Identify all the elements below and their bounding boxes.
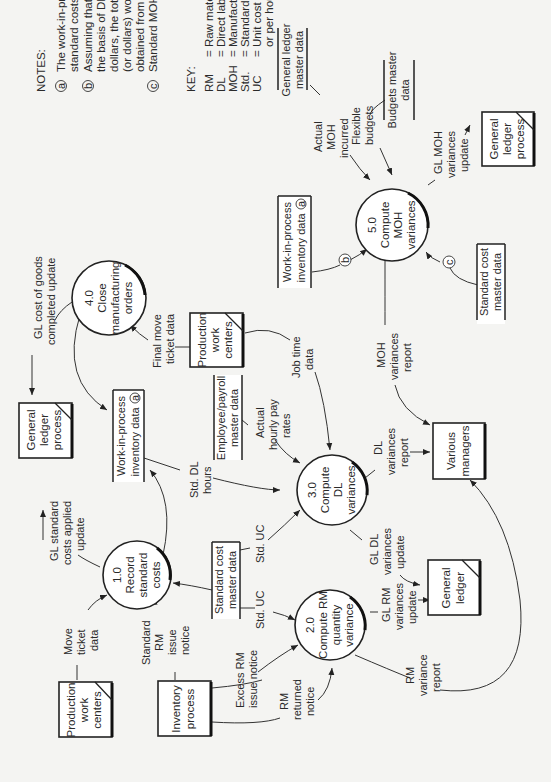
entity-production-work-centers-1[interactable]: Production work centers [59, 682, 112, 737]
svg-text:variances: variances [381, 527, 393, 575]
process-4-close-manufacturing-orders[interactable]: 4.0 Close manufacturing orders [72, 261, 146, 335]
svg-text:= Direct labor: = Direct labor [215, 0, 227, 57]
svg-text:ledger: ledger [501, 123, 513, 155]
svg-text:4.0: 4.0 [83, 290, 95, 306]
store-wip-inventory-data-1[interactable]: Work-in-process inventory data a [113, 390, 144, 482]
svg-text:centers: centers [91, 691, 103, 729]
svg-text:ledger: ledger [38, 414, 50, 446]
svg-text:budgets: budgets [363, 105, 375, 145]
svg-text:update: update [406, 590, 418, 624]
svg-text:GL RM: GL RM [380, 588, 392, 622]
store-marker-a: a [129, 394, 141, 401]
svg-text:inventory data: inventory data [295, 213, 307, 283]
svg-text:Move: Move [62, 628, 74, 655]
svg-text:MOH: MOH [375, 342, 387, 368]
note-a-line1: The work-in-process data reflect [55, 0, 67, 72]
flow-label-std-uc-to-p2: Std. UC [254, 590, 266, 629]
svg-text:Standard cost: Standard cost [478, 248, 490, 316]
svg-text:data: data [399, 78, 411, 100]
store-employee-payroll-master-data[interactable]: Employee/payroll master data [214, 375, 242, 460]
svg-text:2.0: 2.0 [304, 617, 316, 633]
flow-marker-b: b [339, 254, 351, 266]
note-b-line3: dollars, the total standard DL hours [108, 0, 120, 72]
svg-text:issue notice: issue notice [247, 650, 259, 708]
process-2-compute-rm-quantity-variance[interactable]: 2.0 Compute RM quantity variance [295, 590, 365, 660]
svg-text:UC: UC [251, 75, 263, 92]
svg-text:DL: DL [332, 482, 344, 497]
svg-text:incurred: incurred [338, 118, 350, 158]
svg-text:Compute: Compute [319, 467, 331, 514]
svg-text:b: b [339, 257, 351, 263]
svg-text:Standard cost: Standard cost [213, 546, 225, 614]
svg-text:Employee/payroll: Employee/payroll [215, 376, 227, 460]
svg-text:RM: RM [278, 693, 290, 710]
store-standard-cost-master-data-2[interactable]: Standard cost master data [477, 244, 505, 324]
svg-text:Excess RM: Excess RM [234, 652, 246, 708]
note-b-line1: Assuming that MOH is applied on [82, 0, 94, 72]
note-b-line2: the basis of DL hours or DL [95, 0, 107, 72]
svg-text:c: c [147, 83, 159, 89]
svg-text:GL MOH: GL MOH [432, 131, 444, 174]
entity-general-ledger-process-2[interactable]: General ledger process [482, 112, 534, 166]
svg-text:Std. UC: Std. UC [254, 524, 266, 563]
svg-text:DL: DL [372, 441, 384, 455]
svg-text:standard: standard [137, 553, 149, 598]
store-standard-cost-master-data-1[interactable]: Standard cost master data [212, 542, 240, 619]
svg-text:Std. UC: Std. UC [254, 590, 266, 629]
entity-inventory-process[interactable]: Inventory process [158, 681, 211, 736]
svg-text:= Raw materials: = Raw materials [203, 0, 215, 57]
flow-label-gl-moh-variances-update: GL MOH variances update [432, 130, 470, 178]
entity-general-ledger[interactable]: General ledger [428, 560, 480, 615]
flow-label-final-move-ticket-data: Final move ticket data [151, 313, 176, 368]
entity-various-managers[interactable]: Various managers [433, 423, 485, 479]
svg-text:variances: variances [385, 427, 397, 475]
svg-text:completed update: completed update [45, 258, 57, 345]
svg-text:variances: variances [388, 332, 400, 380]
svg-text:MOH: MOH [325, 124, 337, 150]
svg-text:variance: variance [343, 603, 355, 646]
svg-text:hourly pay: hourly pay [267, 399, 279, 450]
process-1-record-standard-costs[interactable]: 1.0 Record standard costs [103, 541, 171, 609]
flow-label-gl-standard-costs-applied-update: GL standard costs applied update [48, 501, 86, 565]
flow-label-moh-variances-report: MOH variances report [375, 332, 413, 380]
flow-label-actual-hourly-pay-rates: Actual hourly pay rates [254, 399, 292, 450]
svg-text:Std. DL: Std. DL [188, 461, 200, 498]
svg-text:work: work [78, 698, 90, 724]
entity-production-work-centers-2[interactable]: Production work centers [190, 313, 243, 368]
svg-text:= Unit cost (per unit of RM: = Unit cost (per unit of RM [251, 0, 263, 57]
flow-label-standard-rm-issue-notice: Standard RM issue notice [140, 620, 191, 665]
svg-text:variances: variances [445, 130, 457, 178]
svg-text:variances: variances [345, 465, 357, 514]
key-block: KEY: RM = Raw materials DL = Direct labo… [185, 0, 275, 92]
svg-text:ledger: ledger [454, 572, 466, 604]
svg-text:Compute RM: Compute RM [317, 591, 329, 659]
svg-text:issue: issue [166, 629, 178, 655]
store-budgets-master-data[interactable]: Budgets master data [384, 51, 414, 128]
svg-text:DL: DL [215, 77, 227, 92]
svg-text:Actual: Actual [254, 407, 266, 438]
flow-label-flexible-budgets: Flexible budgets [350, 105, 375, 145]
store-wip-inventory-data-2[interactable]: Work-in-process inventory data a [278, 196, 311, 288]
flow-label-gl-cost-of-goods-completed-update: GL cost of goods completed update [32, 256, 57, 345]
flow-label-actual-moh-incurred: Actual MOH incurred [312, 118, 350, 158]
process-3-compute-dl-variances[interactable]: 3.0 Compute DL variances [297, 455, 367, 525]
svg-text:report: report [398, 438, 410, 467]
svg-text:Inventory: Inventory [170, 685, 182, 733]
svg-text:Flexible: Flexible [350, 107, 362, 145]
store-general-ledger-master-data[interactable]: General ledger master data [278, 23, 307, 96]
svg-text:update: update [74, 517, 86, 551]
svg-text:orders: orders [122, 281, 134, 314]
svg-text:costs applied: costs applied [61, 501, 73, 565]
svg-text:GL standard: GL standard [48, 501, 60, 561]
svg-text:Std.: Std. [239, 72, 251, 92]
svg-text:a: a [55, 82, 67, 89]
svg-text:Work-in-process: Work-in-process [281, 202, 293, 282]
svg-text:process: process [51, 410, 63, 451]
process-5-compute-moh-variances[interactable]: 5.0 Compute MOH variances [356, 189, 428, 261]
flow-label-gl-dl-variances-update: GL DL variances update [368, 527, 406, 575]
flow-label-move-ticket-data: Move ticket data [62, 628, 100, 655]
entity-general-ledger-process-1[interactable]: General ledger process [19, 403, 72, 458]
svg-text:Production: Production [196, 313, 208, 368]
svg-text:General: General [440, 568, 452, 609]
svg-text:notice: notice [179, 626, 191, 655]
